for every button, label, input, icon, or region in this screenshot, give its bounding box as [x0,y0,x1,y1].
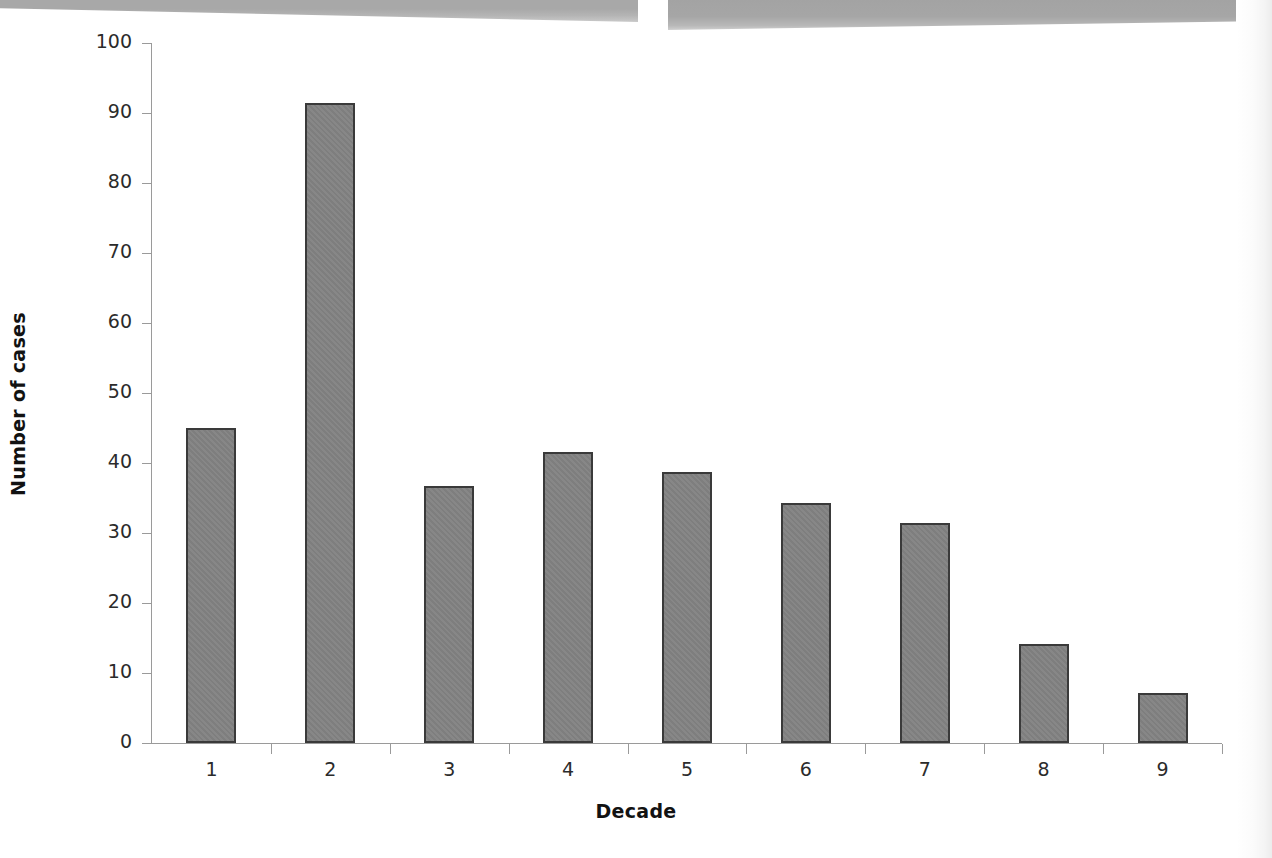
bar [1019,644,1069,743]
y-axis-tick-label: 20 [72,592,132,611]
x-axis-line [152,743,1222,744]
y-axis-title: Number of cases [7,274,29,534]
x-axis-tick [1103,744,1104,754]
x-axis-tick [390,744,391,754]
x-axis-tick-label: 1 [181,760,241,779]
y-axis-tick-label: 10 [72,662,132,681]
x-axis-tick [865,744,866,754]
bar [662,472,712,743]
x-axis-tick-label: 5 [657,760,717,779]
x-axis-tick-label: 7 [895,760,955,779]
x-axis-tick [628,744,629,754]
x-axis-tick [1222,744,1223,754]
y-axis-tick [142,673,151,674]
x-axis-tick [271,744,272,754]
x-axis-title: Decade [0,800,1272,822]
y-axis-tick [142,533,151,534]
y-axis-tick [142,43,151,44]
x-axis-tick-label: 9 [1133,760,1193,779]
bar [900,523,950,743]
x-axis-tick [509,744,510,754]
bar [543,452,593,743]
x-axis-tick-label: 3 [419,760,479,779]
x-axis-tick-label: 4 [538,760,598,779]
y-axis-tick-label: 70 [72,242,132,261]
y-axis-line [151,43,152,744]
bar [186,428,236,743]
bar [305,103,355,744]
x-axis-tick [984,744,985,754]
y-axis-tick-label: 50 [72,382,132,401]
x-axis-tick-label: 8 [1014,760,1074,779]
y-axis-tick-label: 0 [72,732,132,751]
y-axis-tick-label: 60 [72,312,132,331]
y-axis-tick-label: 40 [72,452,132,471]
y-axis-tick [142,323,151,324]
y-axis-tick [142,463,151,464]
y-axis-tick-label: 80 [72,172,132,191]
x-axis-tick [746,744,747,754]
x-axis-tick-label: 6 [776,760,836,779]
bar [424,486,474,743]
y-axis-tick [142,603,151,604]
bar [1138,693,1188,743]
y-axis-tick [142,183,151,184]
y-axis-tick [142,113,151,114]
y-axis-tick-label: 100 [72,32,132,51]
y-axis-tick [142,743,151,744]
y-axis-tick [142,393,151,394]
y-axis-tick-label: 90 [72,102,132,121]
y-axis-tick [142,253,151,254]
bar [781,503,831,743]
y-axis-tick-label: 30 [72,522,132,541]
x-axis-tick-label: 2 [300,760,360,779]
bar-chart: 0102030405060708090100 123456789 Number … [0,0,1272,858]
